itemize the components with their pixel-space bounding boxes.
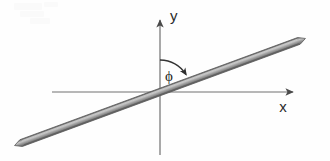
angle-arc [160, 60, 186, 75]
x-axis-label: x [279, 98, 287, 115]
figure-container: x y ϕ [0, 0, 330, 161]
y-axis-label: y [170, 7, 178, 24]
x-axis: x [52, 92, 293, 115]
rod-shadow-edge [24, 44, 299, 145]
diagram-canvas: x y ϕ [0, 0, 330, 161]
angle-label: ϕ [165, 68, 173, 84]
